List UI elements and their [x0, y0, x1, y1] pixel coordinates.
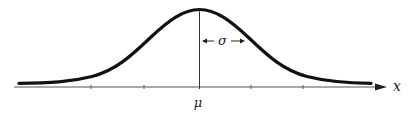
sigma-indicator: σ — [202, 33, 245, 48]
x-axis-arrow-icon — [375, 84, 387, 91]
mean-label: μ — [194, 95, 202, 110]
arrow-right-icon — [240, 39, 245, 44]
sigma-label: σ — [218, 33, 228, 48]
arrow-left-icon — [202, 39, 207, 44]
bell-curve — [19, 10, 371, 84]
x-axis-label: x — [393, 78, 401, 94]
normal-distribution-diagram: σ μ x — [0, 0, 413, 117]
